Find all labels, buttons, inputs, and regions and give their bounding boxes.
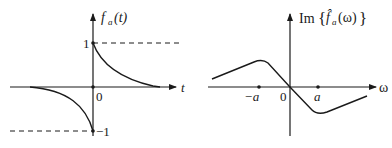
- tick-label-zero: 0: [280, 89, 287, 104]
- right-plot: Im { f̂ a (ω) } −a 0 a ω: [208, 9, 388, 136]
- curve-positive-t: [93, 43, 160, 87]
- left-ylabel-f: f: [101, 10, 107, 25]
- left-ylabel-arg: (t): [114, 10, 128, 26]
- brace-open: {: [318, 9, 326, 28]
- right-ylabel-arg: (ω): [338, 10, 357, 26]
- tick-label-a: a: [314, 89, 321, 104]
- left-ylabel-sub: a: [108, 17, 113, 27]
- figure: f a (t) 1 0 −1 t Im { f̂ a (ω) } −a 0 a …: [0, 0, 392, 148]
- right-ylabel-sub: a: [332, 17, 337, 27]
- tick-label-1: 1: [83, 36, 90, 51]
- left-plot: f a (t) 1 0 −1 t: [10, 10, 185, 139]
- right-ylabel-im: Im: [299, 11, 315, 26]
- tick-label-0: 0: [96, 89, 103, 104]
- curve-negative-t: [30, 87, 93, 131]
- tick-label-neg-a: −a: [244, 89, 260, 104]
- point-origin: [91, 85, 95, 89]
- point-pos1: [91, 41, 95, 45]
- right-xlabel-omega: ω: [379, 80, 388, 95]
- tick-label-neg1: −1: [96, 124, 110, 139]
- brace-close: }: [359, 9, 367, 28]
- left-xlabel-t: t: [181, 80, 185, 95]
- point-neg1: [91, 129, 95, 133]
